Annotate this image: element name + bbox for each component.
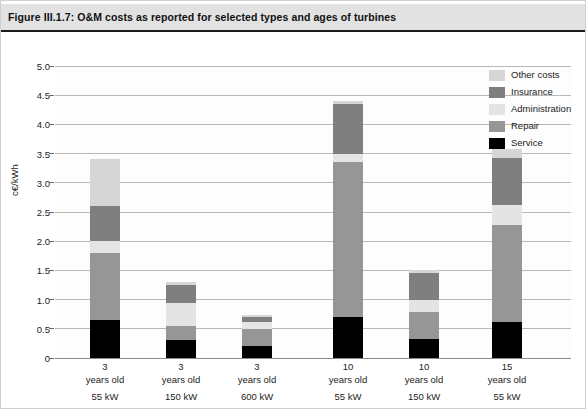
- bar-segment-other-costs[interactable]: [90, 159, 120, 206]
- bar-segment-repair[interactable]: [166, 326, 196, 341]
- x-axis-tick-labels: 3years old55 kW3years old150 kW3years ol…: [55, 360, 571, 408]
- bar-segment-repair[interactable]: [333, 162, 363, 317]
- bar-segment-administration[interactable]: [166, 303, 196, 326]
- legend-item[interactable]: Service: [489, 136, 585, 152]
- bar-segment-service[interactable]: [492, 322, 522, 358]
- legend-swatch-icon: [489, 70, 505, 81]
- y-axis-tick-labels: 00.51.01.52.02.53.03.54.04.55.0: [8, 66, 50, 358]
- bar-stack[interactable]: [409, 66, 439, 358]
- legend-swatch-icon: [489, 121, 505, 132]
- figure-title-banner: Figure III.1.7: O&M costs as reported fo…: [0, 4, 586, 32]
- y-axis-tick-label: 4.0: [10, 119, 50, 130]
- bar-segment-repair[interactable]: [242, 329, 272, 347]
- x-axis-label-line: years old: [386, 373, 462, 386]
- x-axis-label-line: 150 kW: [386, 390, 462, 403]
- x-axis-label-group: 15years old55 kW: [469, 360, 545, 403]
- x-axis-label-line: years old: [469, 373, 545, 386]
- x-axis-label-line: 55 kW: [310, 390, 386, 403]
- x-axis-label-line: 55 kW: [469, 390, 545, 403]
- legend-item[interactable]: Repair: [489, 119, 585, 135]
- x-axis-label-line: 150 kW: [143, 390, 219, 403]
- x-axis-label-line: years old: [310, 373, 386, 386]
- y-axis-tick-label: 4.5: [10, 90, 50, 101]
- x-axis-label-line: 10: [386, 360, 462, 373]
- bar-segment-service[interactable]: [242, 346, 272, 358]
- x-axis-label-group: 10years old55 kW: [310, 360, 386, 403]
- x-axis-label-line: 10: [310, 360, 386, 373]
- y-axis-tick-mark: [49, 66, 54, 67]
- y-axis-tick-label: 3.0: [10, 177, 50, 188]
- bar-stack[interactable]: [166, 66, 196, 358]
- x-axis-label-group: 10years old150 kW: [386, 360, 462, 403]
- legend-item[interactable]: Insurance: [489, 85, 585, 101]
- bar-segment-service[interactable]: [90, 320, 120, 358]
- bar-segment-other-costs[interactable]: [166, 282, 196, 285]
- legend-label: Other costs: [511, 69, 560, 80]
- bar-segment-service[interactable]: [409, 339, 439, 358]
- bar-stack[interactable]: [90, 66, 120, 358]
- y-axis-tick-label: 2.5: [10, 207, 50, 218]
- x-axis-label-group: 3years old150 kW: [143, 360, 219, 403]
- y-axis-tick-mark: [49, 124, 54, 125]
- bar-segment-insurance[interactable]: [242, 317, 272, 322]
- y-axis-tick-label: 1.0: [10, 294, 50, 305]
- bar-segment-insurance[interactable]: [90, 206, 120, 241]
- bar-segment-repair[interactable]: [90, 253, 120, 320]
- y-axis-tick-label: 2.0: [10, 236, 50, 247]
- x-axis-label-group: 3years old55 kW: [67, 360, 143, 403]
- figure-root: Figure III.1.7: O&M costs as reported fo…: [0, 0, 586, 409]
- bar-segment-insurance[interactable]: [409, 273, 439, 299]
- x-axis-label-line: years old: [219, 373, 295, 386]
- bar-segment-administration[interactable]: [409, 300, 439, 313]
- y-axis-tick-label: 5.0: [10, 61, 50, 72]
- chart-legend: Other costsInsuranceAdministrationRepair…: [489, 68, 585, 153]
- legend-label: Insurance: [511, 86, 553, 97]
- legend-label: Repair: [511, 120, 539, 131]
- x-axis-label-line: 3: [67, 360, 143, 373]
- bar-segment-insurance[interactable]: [492, 158, 522, 205]
- bar-segment-other-costs[interactable]: [409, 270, 439, 273]
- x-axis-label-line: years old: [143, 373, 219, 386]
- bar-segment-other-costs[interactable]: [242, 315, 272, 317]
- legend-item[interactable]: Administration: [489, 102, 585, 118]
- y-axis-tick-label: 0: [10, 353, 50, 364]
- legend-label: Service: [511, 137, 543, 148]
- bar-segment-administration[interactable]: [242, 322, 272, 329]
- legend-label: Administration: [511, 103, 571, 114]
- x-axis-label-line: 55 kW: [67, 390, 143, 403]
- y-axis-tick-mark: [49, 212, 54, 213]
- legend-swatch-icon: [489, 104, 505, 115]
- legend-item[interactable]: Other costs: [489, 68, 585, 84]
- y-axis-tick-mark: [49, 153, 54, 154]
- y-axis-tick-mark: [49, 95, 54, 96]
- bar-segment-repair[interactable]: [409, 312, 439, 339]
- y-axis-tick-mark: [49, 182, 54, 183]
- legend-swatch-icon: [489, 87, 505, 98]
- bar-segment-administration[interactable]: [492, 205, 522, 225]
- y-axis-tick-label: 0.5: [10, 323, 50, 334]
- y-axis-tick-label: 3.5: [10, 148, 50, 159]
- bar-segment-repair[interactable]: [492, 225, 522, 322]
- bar-segment-insurance[interactable]: [333, 104, 363, 154]
- bar-stack[interactable]: [333, 66, 363, 358]
- x-axis-label-line: years old: [67, 373, 143, 386]
- bar-stack[interactable]: [242, 66, 272, 358]
- bar-segment-insurance[interactable]: [166, 285, 196, 303]
- bar-segment-administration[interactable]: [90, 241, 120, 253]
- x-axis-label-line: 600 kW: [219, 390, 295, 403]
- page-title: Figure III.1.7: O&M costs as reported fo…: [8, 11, 396, 23]
- x-axis-label-line: 3: [219, 360, 295, 373]
- x-axis-label-group: 3years old600 kW: [219, 360, 295, 403]
- bar-segment-service[interactable]: [166, 340, 196, 358]
- y-axis-tick-label: 1.5: [10, 265, 50, 276]
- bar-segment-administration[interactable]: [333, 154, 363, 163]
- y-axis-tick-mark: [49, 328, 54, 329]
- x-axis-label-line: 3: [143, 360, 219, 373]
- bar-segment-service[interactable]: [333, 317, 363, 358]
- y-axis-tick-mark: [49, 299, 54, 300]
- bar-segment-other-costs[interactable]: [333, 101, 363, 104]
- y-axis-tick-mark: [49, 358, 54, 359]
- y-axis-tick-mark: [49, 270, 54, 271]
- x-axis-label-line: 15: [469, 360, 545, 373]
- y-axis-tick-mark: [49, 241, 54, 242]
